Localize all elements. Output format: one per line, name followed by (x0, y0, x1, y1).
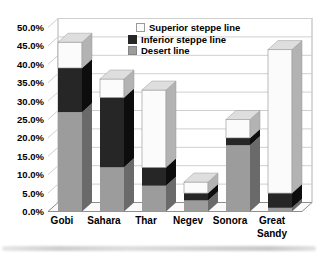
bar-side-great-sandy-superior-steppe-line (292, 41, 302, 194)
legend-label: Superior steppe line (149, 22, 240, 33)
gridline-side (48, 55, 58, 64)
y-axis-tick-label: 20.0% (17, 132, 44, 143)
legend-swatch-superior-icon (136, 23, 145, 32)
gridline-side (48, 19, 58, 28)
bar-thar-desert-line (142, 186, 166, 212)
bar-side-sonora-desert-line (250, 136, 260, 211)
legend-item-superior-steppe-line: Superior steppe line (136, 22, 240, 34)
y-axis-tick-label: 40.0% (17, 59, 44, 70)
y-axis-tick-label: 45.0% (17, 40, 44, 51)
x-axis-category-label: Sandy (257, 228, 287, 239)
bar-gobi-inferior-steppe-line (58, 68, 82, 112)
bar-side-sahara-inferior-steppe-line (124, 88, 134, 167)
bar-side-thar-superior-steppe-line (166, 81, 176, 167)
bar-sahara-desert-line (100, 167, 124, 211)
legend-item-inferior-steppe-line: Inferior steppe line (128, 34, 240, 46)
legend-item-desert-line: Desert line (128, 45, 240, 57)
bar-gobi-superior-steppe-line (58, 42, 82, 68)
bar-thar-superior-steppe-line (142, 90, 166, 167)
bar-great-sandy-desert-line (268, 208, 292, 212)
x-axis-category-label: Sonora (213, 215, 248, 226)
bar-thar-inferior-steppe-line (142, 167, 166, 185)
y-axis-tick-label: 30.0% (17, 96, 44, 107)
bar-sahara-superior-steppe-line (100, 79, 124, 97)
gridline-side (48, 74, 58, 83)
bar-sonora-inferior-steppe-line (226, 138, 250, 145)
legend-swatch-inferior-icon (128, 35, 137, 44)
gridline-side (48, 184, 58, 193)
y-axis-tick-label: 25.0% (17, 114, 44, 125)
legend-label: Inferior steppe line (141, 34, 226, 45)
legend-swatch-desert-icon (128, 46, 137, 55)
chart-screenshot: 0.0%5.0%10.0%15.0%20.0%25.0%30.0%35.0%40… (0, 0, 319, 255)
bar-sahara-inferior-steppe-line (100, 97, 124, 167)
y-axis-tick-label: 0.0% (22, 206, 44, 217)
bar-great-sandy-superior-steppe-line (268, 50, 292, 194)
bar-gobi-desert-line (58, 112, 82, 211)
chart-legend: Superior steppe line Inferior steppe lin… (128, 22, 240, 57)
y-axis-tick-label: 35.0% (17, 77, 44, 88)
bar-sonora-superior-steppe-line (226, 120, 250, 138)
gridline-side (48, 166, 58, 175)
gridline-side (48, 129, 58, 138)
gridline-side (48, 92, 58, 101)
x-axis-category-label: Sahara (87, 215, 121, 226)
y-axis-tick-label: 15.0% (17, 151, 44, 162)
gridline-side (48, 111, 58, 120)
bar-negev-superior-steppe-line (184, 182, 208, 193)
gridline-side (48, 147, 58, 156)
bar-side-gobi-desert-line (82, 103, 92, 211)
bar-negev-desert-line (184, 200, 208, 211)
bar-great-sandy-inferior-steppe-line (268, 193, 292, 208)
scan-artifact-stripe (2, 246, 316, 251)
x-axis-category-label: Great (259, 215, 286, 226)
bar-sonora-desert-line (226, 145, 250, 211)
y-axis-tick-label: 50.0% (17, 22, 44, 33)
y-axis-tick-label: 10.0% (17, 169, 44, 180)
bar-side-sahara-desert-line (124, 158, 134, 211)
gridline-side (48, 37, 58, 46)
x-axis-category-label: Gobi (51, 215, 74, 226)
bar-negev-inferior-steppe-line (184, 193, 208, 200)
legend-label: Desert line (141, 45, 190, 56)
y-axis-tick-label: 5.0% (22, 188, 44, 199)
x-axis-category-label: Negev (173, 215, 203, 226)
x-axis-category-label: Thar (135, 215, 157, 226)
